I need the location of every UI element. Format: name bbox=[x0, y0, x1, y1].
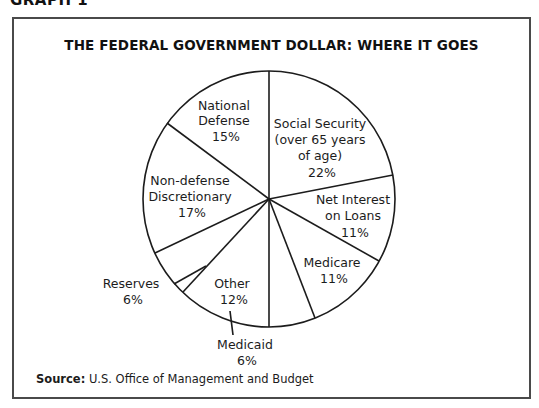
label-other: Other 12% bbox=[214, 276, 253, 307]
label-medicaid: Medicaid 6% bbox=[217, 337, 277, 368]
pie-chart: National Defense 15% Social Security (ov… bbox=[0, 0, 539, 408]
label-reserves: Reserves 6% bbox=[103, 276, 164, 307]
